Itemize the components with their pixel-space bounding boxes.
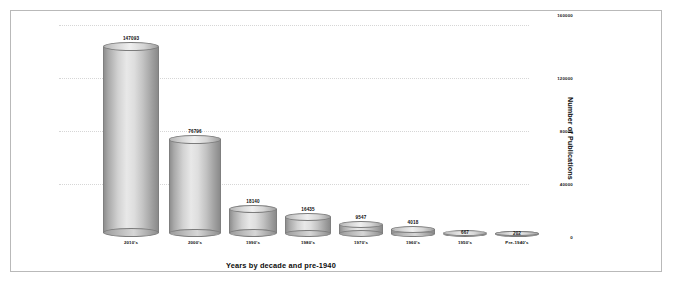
bar-value-1960s: 4018 bbox=[408, 220, 419, 225]
y-tick-label-160000: 160000 bbox=[557, 13, 573, 18]
cylinder-bottom-1970s bbox=[339, 230, 383, 237]
chart-frame: 147093 2010's 76796 2000's bbox=[10, 10, 662, 272]
cylinder-1980s bbox=[285, 213, 331, 237]
cylinder-2000s bbox=[169, 135, 221, 237]
bar-value-1980s: 16435 bbox=[301, 207, 315, 212]
cylinder-body-2000s bbox=[169, 139, 221, 233]
bar-value-pre-1940s: 202 bbox=[495, 231, 539, 236]
bar-label-1960s: 1960's bbox=[391, 240, 435, 245]
bar-value-2000s: 76796 bbox=[188, 129, 202, 134]
cylinder-bottom-1980s bbox=[285, 230, 331, 238]
plot-area: 147093 2010's 76796 2000's bbox=[59, 25, 529, 237]
cylinder-1960s bbox=[391, 226, 435, 237]
bar-2010s[interactable]: 147093 bbox=[103, 25, 159, 237]
cylinder-top-1970s bbox=[339, 221, 383, 228]
cylinder-top-1960s bbox=[391, 226, 435, 233]
bar-label-2000s: 2000's bbox=[169, 240, 221, 245]
bar-1950s[interactable]: 667 bbox=[443, 25, 487, 237]
chart-screenshot: 147093 2010's 76796 2000's bbox=[0, 0, 674, 284]
bar-label-2010s: 2010's bbox=[103, 240, 159, 245]
cylinder-1970s bbox=[339, 221, 383, 237]
y-axis-title: Number of Publications bbox=[563, 83, 577, 193]
bar-label-1950s: 1950's bbox=[443, 240, 487, 245]
bar-value-1970s: 9547 bbox=[356, 215, 367, 220]
bar-label-1970s: 1970's bbox=[339, 240, 383, 245]
bar-value-2010s: 147093 bbox=[123, 36, 139, 41]
bar-value-1990s: 18140 bbox=[246, 199, 260, 204]
cylinder-body-2010s bbox=[103, 47, 159, 233]
bar-label-1980s: 1980's bbox=[285, 240, 331, 245]
cylinder-1950s: 667 bbox=[443, 230, 487, 237]
cylinder-pre-1940s: 202 bbox=[495, 231, 539, 238]
bar-1970s[interactable]: 9547 bbox=[339, 25, 383, 237]
bar-1960s[interactable]: 4018 bbox=[391, 25, 435, 237]
y-tick-label-120000: 120000 bbox=[557, 76, 573, 81]
cylinder-top-1980s bbox=[285, 213, 331, 221]
cylinder-1990s bbox=[229, 205, 277, 237]
bar-value-1950s: 667 bbox=[443, 230, 487, 235]
x-axis-title: Years by decade and pre-1940 bbox=[11, 261, 551, 270]
bar-label-1990s: 1990's bbox=[229, 240, 277, 245]
cylinder-top-2010s bbox=[103, 42, 159, 51]
y-tick-label-0: 0 bbox=[570, 235, 573, 240]
bar-1980s[interactable]: 16435 bbox=[285, 25, 331, 237]
bar-1990s[interactable]: 18140 bbox=[229, 25, 277, 237]
cylinder-bottom-1990s bbox=[229, 229, 277, 237]
cylinder-top-2000s bbox=[169, 135, 221, 144]
bar-2000s[interactable]: 76796 bbox=[169, 25, 221, 237]
cylinder-bottom-2000s bbox=[169, 229, 221, 238]
cylinder-bottom-2010s bbox=[103, 228, 159, 237]
cylinder-2010s bbox=[103, 42, 159, 237]
cylinder-top-1990s bbox=[229, 205, 277, 213]
